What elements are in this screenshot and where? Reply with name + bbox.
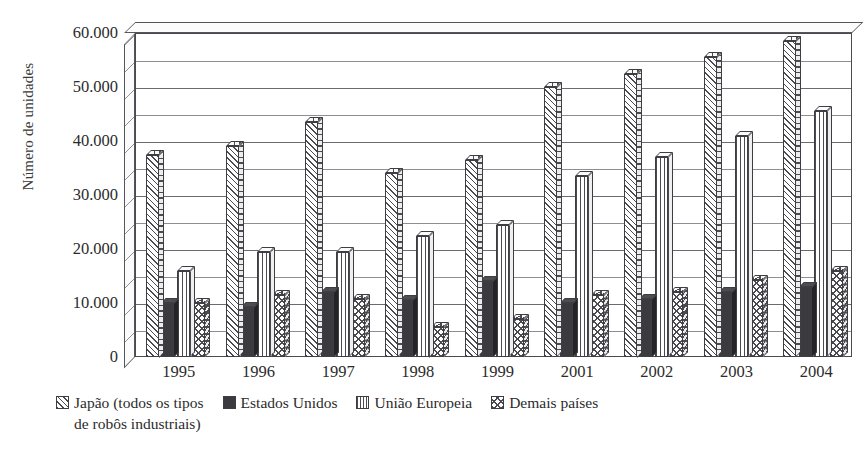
legend-item[interactable]: Japão (todos os tiposde robôs industriai… — [56, 392, 204, 413]
bar-front-face — [544, 87, 557, 357]
y-axis-tick-label: 0 — [110, 347, 118, 367]
bar-front-face — [704, 57, 717, 357]
bar-side-face — [717, 52, 722, 357]
bar-side-face — [493, 276, 498, 357]
bar-group-2001 — [544, 33, 606, 357]
bar-front-face — [385, 173, 398, 357]
bar-side-face — [748, 131, 753, 357]
bar-side-face — [478, 155, 483, 357]
x-axis-tick-label: 1998 — [401, 362, 434, 382]
bar — [305, 122, 318, 357]
bar-side-face — [683, 287, 688, 357]
bar-side-face — [732, 287, 737, 357]
x-axis-tick-label: 1999 — [481, 362, 514, 382]
x-axis-tick-label: 1997 — [322, 362, 355, 382]
bar-side-face — [604, 290, 609, 357]
bar-group-2003 — [704, 33, 766, 357]
y-axis-tick-label: 20.000 — [73, 239, 118, 259]
y-axis-tick-label: 10.000 — [73, 293, 118, 313]
y-axis-tick-label: 40.000 — [73, 131, 118, 151]
bar-side-face — [413, 295, 418, 357]
legend-item-label: Demais países — [509, 392, 598, 413]
legend-item[interactable]: União Europeia — [356, 392, 472, 413]
bar-side-face — [668, 152, 673, 357]
bar — [544, 87, 557, 357]
bar-side-face — [444, 322, 449, 357]
bar-side-face — [365, 294, 370, 357]
bar-side-face — [159, 150, 164, 358]
bar-side-face — [843, 266, 848, 357]
plot-left-wall-ticks — [125, 35, 134, 366]
bar — [704, 57, 717, 357]
bar-side-face — [174, 298, 179, 357]
bar-side-face — [637, 69, 642, 358]
x-axis-tick-label: 2004 — [800, 362, 833, 382]
legend-item-label: Japão (todos os tipos — [74, 392, 204, 413]
bar-side-face — [812, 282, 817, 357]
bar-front-face — [465, 160, 478, 357]
bar-side-face — [509, 220, 514, 357]
plot-top-wall — [124, 22, 863, 33]
bar-side-face — [796, 36, 801, 357]
bar-front-face — [146, 155, 159, 358]
bar-side-face — [588, 171, 593, 357]
bar-group-1995 — [146, 33, 208, 357]
bar-front-face — [305, 122, 318, 357]
bar-group-2002 — [624, 33, 686, 357]
y-axis-tick-label: 50.000 — [73, 77, 118, 97]
legend-row: Japão (todos os tiposde robôs industriai… — [56, 392, 856, 413]
legend-item-label: União Europeia — [374, 392, 472, 413]
bar-side-face — [524, 314, 529, 357]
bar-side-face — [285, 290, 290, 357]
x-axis-tick-label: 2002 — [640, 362, 673, 382]
bar-side-face — [334, 287, 339, 357]
x-axis-tick-label: 1996 — [242, 362, 275, 382]
bar-side-face — [763, 275, 768, 357]
bar — [385, 173, 398, 357]
legend-item-label-continued: de robôs industriais) — [74, 413, 201, 434]
y-axis-tick-labels: 010.00020.00030.00040.00050.00060.000 — [34, 0, 118, 454]
bar-side-face — [239, 141, 244, 357]
bar — [624, 74, 637, 358]
legend-item-label: Estados Unidos — [241, 392, 338, 413]
bar — [465, 160, 478, 357]
bar-side-face — [398, 168, 403, 357]
bar-front-face — [226, 146, 239, 357]
bar — [226, 146, 239, 357]
bar-group-2004 — [783, 33, 845, 357]
bar-side-face — [827, 106, 832, 357]
robot-units-bar-chart: Número de unidades 010.00020.00030.00040… — [0, 0, 864, 454]
bars-layer — [135, 33, 852, 357]
bar-group-1998 — [385, 33, 447, 357]
diagonal-hatch-swatch — [56, 396, 69, 409]
bar — [146, 155, 159, 358]
legend-item[interactable]: Estados Unidos — [223, 392, 338, 413]
x-axis-tick-label: 2003 — [720, 362, 753, 382]
bar-side-face — [205, 298, 210, 357]
x-axis-tick-labels: 199519961997199819992001200220032004 — [135, 362, 852, 388]
vertical-lines-swatch — [356, 396, 369, 409]
bar-side-face — [429, 231, 434, 358]
bar-side-face — [190, 266, 195, 357]
bar-side-face — [573, 298, 578, 357]
bar-side-face — [318, 117, 323, 357]
cross-hatch-swatch — [491, 396, 504, 409]
bar — [783, 41, 796, 357]
bar-side-face — [349, 247, 354, 357]
plot-left-wall — [124, 33, 135, 368]
y-axis-tick-label: 60.000 — [73, 23, 118, 43]
chart-legend: Japão (todos os tiposde robôs industriai… — [56, 392, 856, 413]
bar-group-1999 — [465, 33, 527, 357]
bar-side-face — [652, 294, 657, 357]
x-axis-tick-label: 2001 — [561, 362, 594, 382]
bar-front-face — [624, 74, 637, 358]
plot-frame — [124, 22, 852, 358]
bar-group-1996 — [226, 33, 288, 357]
x-axis-tick-label: 1995 — [162, 362, 195, 382]
bar-group-1997 — [305, 33, 367, 357]
solid-dark-swatch — [223, 396, 236, 409]
legend-item[interactable]: Demais países — [491, 392, 598, 413]
bar-side-face — [254, 302, 259, 357]
bar-front-face — [783, 41, 796, 357]
bar-side-face — [557, 82, 562, 357]
